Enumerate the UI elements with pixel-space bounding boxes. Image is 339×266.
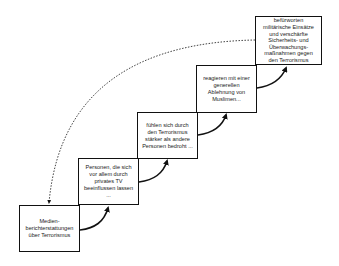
step-box-support-military-measures: befürworten militärische Einsätze und ve…: [255, 16, 322, 65]
text-line: den Terrorismus: [142, 129, 193, 136]
step-box-private-tv-viewers: Personen, die sich vor allem durch priva…: [78, 158, 139, 205]
text-line: berichterstattungen: [26, 225, 74, 232]
text-line: militärische Einsätze: [263, 24, 314, 31]
step-box-reject-muslims: reagieren mit einer generellen Ablehnung…: [196, 65, 257, 113]
text-line: über Terrorismus: [26, 232, 74, 239]
text-line: privates TV: [84, 178, 133, 185]
step-text: befürworten militärische Einsätze und ve…: [263, 17, 314, 63]
text-line: und verschärfte: [263, 31, 314, 38]
step-text: Personen, die sich vor allem durch priva…: [84, 164, 133, 199]
step-box-media-coverage: Medien- berichterstattungen über Terrori…: [19, 205, 80, 252]
text-line: Überwachungs-: [263, 44, 314, 51]
text-line: Muslimen...: [203, 96, 250, 103]
text-line: ...: [84, 192, 133, 199]
text-line: Medien-: [26, 218, 74, 225]
arrow-step3-to-step4: [198, 115, 226, 135]
text-line: befürworten: [263, 17, 314, 24]
text-line: Ablehnung von: [203, 89, 250, 96]
arrow-step2-to-step3: [139, 161, 167, 182]
step-text: reagieren mit einer generellen Ablehnung…: [203, 75, 250, 103]
step-text: Medien- berichterstattungen über Terrori…: [26, 218, 74, 239]
text-line: Sicherheits- und: [263, 37, 314, 44]
text-line: Personen bedroht ...: [142, 143, 193, 150]
text-line: Personen, die sich: [84, 164, 133, 171]
text-line: reagieren mit einer: [203, 75, 250, 82]
text-line: generellen: [203, 82, 250, 89]
step-box-feel-threatened: fühlen sich durch den Terrorismus stärke…: [137, 112, 198, 159]
text-line: beeinflussen lassen: [84, 185, 133, 192]
arrow-step4-to-step5: [257, 68, 286, 88]
text-line: maßnahmen gegen: [263, 50, 314, 57]
arrow-step1-to-step2: [80, 208, 108, 230]
text-line: stärker als andere: [142, 136, 193, 143]
text-line: vor allem durch: [84, 171, 133, 178]
text-line: den Terrorismus: [263, 57, 314, 64]
step-text: fühlen sich durch den Terrorismus stärke…: [142, 122, 193, 150]
text-line: fühlen sich durch: [142, 122, 193, 129]
